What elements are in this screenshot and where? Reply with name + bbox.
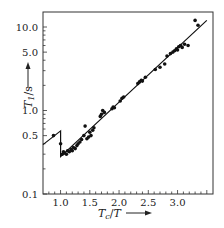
plot-frame (43, 12, 213, 194)
x-tick-label: 1.5 (82, 197, 98, 208)
data-point (158, 65, 162, 69)
data-point (59, 142, 63, 146)
data-point (71, 149, 75, 153)
fit-line (43, 20, 207, 156)
data-point (144, 76, 148, 80)
data-point (141, 79, 145, 83)
y-axis-label: T1/s (22, 62, 36, 108)
x-tick-label: 2.5 (140, 197, 156, 208)
x-tick-label: 1.0 (53, 197, 69, 208)
data-point (163, 62, 167, 66)
data-point (180, 46, 184, 50)
data-point (82, 134, 86, 138)
data-point (186, 44, 190, 48)
fit-polyline (43, 20, 207, 156)
data-point (165, 54, 169, 58)
y-axis-arrowhead-icon (26, 62, 31, 69)
x-tick-label: 3.0 (170, 197, 186, 208)
y-tick-label: 5.0 (22, 47, 38, 58)
data-point (196, 23, 200, 27)
data-point (80, 138, 84, 142)
data-point (92, 126, 96, 130)
data-point (113, 106, 117, 110)
y-axis-label-text: T1/s (22, 86, 36, 108)
data-point (103, 111, 107, 115)
data-points (52, 19, 200, 156)
data-point (65, 152, 69, 156)
data-point (52, 134, 56, 138)
x-axis-label-text: Tc/T (98, 207, 123, 221)
x-axis-ticks: 1.01.52.02.53.0 (49, 190, 207, 208)
data-point (154, 68, 158, 72)
data-point (89, 134, 93, 138)
chart: 0.10.51.05.010.0 1.01.52.02.53.0 T1/s Tc… (0, 0, 224, 228)
data-point (83, 124, 87, 128)
data-point (122, 95, 126, 99)
y-tick-label: 10.0 (16, 22, 38, 33)
data-point (193, 19, 197, 23)
data-point (176, 48, 180, 52)
x-axis-label: Tc/T (98, 207, 152, 221)
y-tick-label: 0.1 (22, 189, 38, 200)
y-axis-ticks: 0.10.51.05.010.0 (16, 22, 47, 200)
y-tick-label: 0.5 (22, 130, 38, 141)
x-axis-arrowhead-icon (145, 211, 152, 216)
data-point (183, 43, 187, 47)
